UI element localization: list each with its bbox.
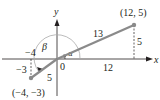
leg-label-neg4: −4 (25, 47, 36, 58)
point-neg4-neg3 (29, 76, 33, 80)
x-axis-label: x (153, 54, 159, 65)
beta-label: β (41, 41, 47, 52)
leg-label-neg3: −3 (16, 64, 27, 75)
leg-label-12: 12 (103, 62, 113, 73)
length-label-5-hyp: 5 (47, 72, 52, 83)
length-label-13: 13 (93, 28, 103, 39)
point-label-neg4-neg3: (−4, −3) (12, 87, 45, 99)
point-12-5 (132, 23, 136, 27)
y-axis-arrow-icon (55, 19, 60, 26)
y-axis-label: y (53, 6, 59, 17)
angle-diagram: x y 0 β α (12, 5) (−4, −3) 13 5 12 5 −4 … (0, 0, 160, 100)
leg-label-5: 5 (137, 36, 142, 47)
segment-to-neg4-neg3 (31, 59, 57, 78)
origin-label: 0 (60, 61, 65, 72)
x-axis-arrow-icon (146, 57, 153, 62)
point-label-12-5: (12, 5) (120, 7, 147, 19)
